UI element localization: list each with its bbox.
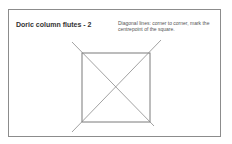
diagonal-line-1 [72, 42, 154, 126]
geometry-drawing [0, 0, 232, 144]
diagonal-line-2 [72, 40, 161, 132]
